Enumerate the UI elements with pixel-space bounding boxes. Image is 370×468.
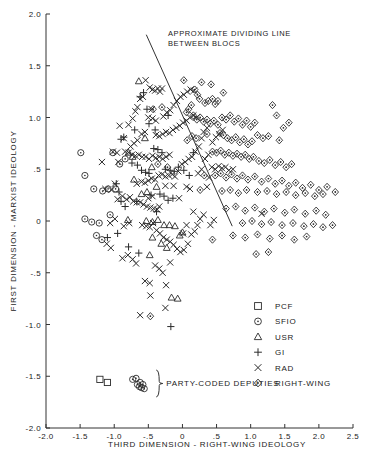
marker-diamond-dot: [268, 135, 270, 137]
marker-diamond-dot: [195, 137, 197, 139]
marker-diamond-dot: [235, 206, 237, 208]
marker-diamond-dot: [235, 136, 237, 138]
marker-diamond-dot: [295, 182, 297, 184]
marker-diamond-dot: [199, 189, 201, 191]
marker-diamond-dot: [240, 156, 242, 158]
marker-diamond-dot: [254, 176, 256, 178]
marker-diamond-dot: [212, 239, 214, 241]
marker-diamond-dot: [233, 121, 235, 123]
marker-diamond-dot: [334, 191, 336, 193]
marker-diamond-dot: [261, 223, 263, 225]
marker-diamond-dot: [190, 104, 192, 106]
marker-circle-dot: [98, 222, 100, 224]
y-tick-label: 0: [36, 217, 41, 226]
legend-label: RIGHT-WING: [275, 379, 331, 388]
marker-diamond-dot: [214, 175, 216, 177]
marker-diamond-dot: [197, 94, 199, 96]
marker-diamond-dot: [255, 253, 257, 255]
marker-diamond-dot: [224, 154, 226, 156]
marker-diamond-dot: [257, 234, 259, 236]
chart-canvas: -2.0-1.5-1.0-.50.51.01.52.02.5 2.01.51.0…: [0, 0, 370, 468]
marker-diamond-dot: [251, 220, 253, 222]
marker-diamond-dot: [210, 123, 212, 125]
marker-diamond-dot: [201, 81, 203, 83]
marker-diamond-dot: [268, 251, 270, 253]
marker-diamond-dot: [274, 183, 276, 185]
marker-diamond-dot: [281, 224, 283, 226]
marker-diamond-dot: [222, 92, 224, 94]
marker-diamond-dot: [257, 191, 259, 193]
marker-diamond-dot: [199, 98, 201, 100]
marker-diamond-dot: [152, 108, 154, 110]
marker-diamond-dot: [288, 185, 290, 187]
marker-diamond-dot: [251, 140, 253, 142]
marker-diamond-dot: [314, 195, 316, 197]
marker-diamond-dot: [281, 235, 283, 237]
marker-circle-dot: [91, 221, 93, 223]
marker-diamond-dot: [221, 190, 223, 192]
marker-diamond-dot: [310, 184, 312, 186]
marker-diamond-dot: [203, 121, 205, 123]
marker-diamond-dot: [280, 161, 282, 163]
marker-diamond-dot: [250, 126, 252, 128]
marker-circle-dot: [93, 188, 95, 190]
marker-diamond-dot: [236, 153, 238, 155]
marker-diamond-dot: [276, 115, 278, 117]
marker-diamond-dot: [258, 160, 260, 162]
x-tick-label: 2.0: [313, 432, 325, 441]
marker-diamond-dot: [161, 106, 163, 108]
marker-circle-dot: [143, 388, 145, 390]
marker-diamond-dot: [270, 221, 272, 223]
marker-diamond-dot: [263, 211, 265, 213]
marker-diamond-dot: [257, 134, 259, 136]
marker-circle-dot: [139, 382, 141, 384]
y-tick-label: 2.0: [29, 10, 41, 19]
marker-diamond-dot: [295, 194, 297, 196]
marker-diamond-dot: [206, 133, 208, 135]
marker-diamond-dot: [273, 208, 275, 210]
marker-diamond-dot: [194, 89, 196, 91]
dividing-line-annotation-text: BETWEEN BLOCS: [168, 39, 240, 48]
legend-label: GI: [275, 348, 285, 357]
marker-diamond-dot: [167, 166, 169, 168]
marker-diamond-dot: [204, 102, 206, 104]
marker-diamond-dot: [231, 174, 233, 176]
marker-diamond-dot: [232, 155, 234, 157]
marker-diamond-dot: [207, 100, 209, 102]
x-tick-label: -2.0: [38, 432, 54, 441]
legend-label: USR: [275, 333, 294, 342]
marker-diamond-dot: [269, 238, 271, 240]
marker-diamond-dot: [281, 180, 283, 182]
marker-diamond-dot: [303, 225, 305, 227]
y-tick-label: 1.5: [29, 62, 41, 71]
marker-diamond-dot: [217, 100, 219, 102]
marker-diamond-dot: [149, 315, 151, 317]
marker-diamond-dot: [229, 189, 231, 191]
marker-diamond-dot: [288, 122, 290, 124]
marker-diamond-dot: [306, 236, 308, 238]
marker-diamond-dot: [243, 138, 245, 140]
y-axis-title: FIRST DIMENSION - MARXIST IDEOLOGY: [9, 131, 18, 312]
y-tick-label: -1.5: [26, 372, 42, 381]
marker-diamond-dot: [283, 127, 285, 129]
marker-diamond-dot: [257, 382, 259, 384]
marker-diamond-dot: [237, 192, 239, 194]
marker-diamond-dot: [244, 154, 246, 156]
marker-diamond-dot: [285, 166, 287, 168]
marker-diamond-dot: [242, 175, 244, 177]
marker-diamond-dot: [284, 212, 286, 214]
marker-diamond-dot: [225, 208, 227, 210]
marker-diamond-dot: [318, 189, 320, 191]
marker-diamond-dot: [231, 139, 233, 141]
marker-diamond-dot: [293, 239, 295, 241]
marker-diamond-dot: [192, 115, 194, 117]
marker-circle-dot: [124, 158, 126, 160]
marker-diamond-dot: [217, 124, 219, 126]
marker-diamond-dot: [246, 120, 248, 122]
marker-diamond-dot: [183, 79, 185, 81]
marker-diamond-dot: [206, 119, 208, 121]
marker-diamond-dot: [232, 235, 234, 237]
marker-diamond-dot: [228, 152, 230, 154]
marker-circle-dot: [115, 188, 117, 190]
marker-diamond-dot: [269, 159, 271, 161]
